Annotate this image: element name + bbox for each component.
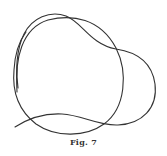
closed-loop-curve [14,18,124,135]
bulb-curve [15,14,155,127]
figure-caption: Fig. 7 [0,137,167,147]
figure-drawing [0,0,167,156]
